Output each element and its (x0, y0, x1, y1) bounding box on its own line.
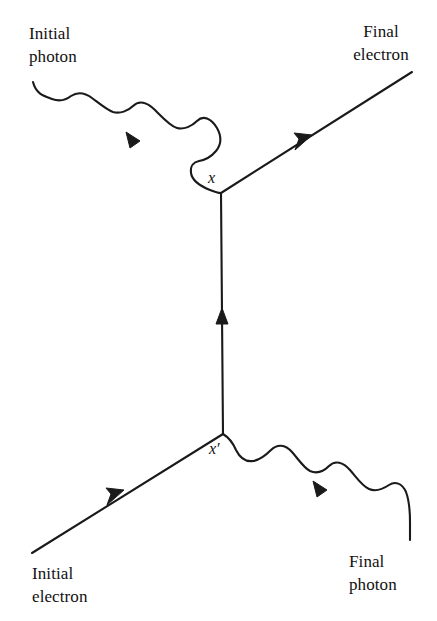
label-final-electron-line1: Final (363, 22, 398, 41)
label-vertex-x-prime: x′ (209, 440, 220, 458)
label-final-electron-line2: electron (344, 43, 418, 66)
label-final-electron: Final electron (344, 20, 418, 66)
feynman-diagram-figure: Initial photon Final electron Initial el… (0, 0, 437, 621)
final-photon-arrowhead (313, 481, 327, 497)
final-photon-line (223, 434, 410, 540)
label-final-photon-line1: Final (349, 552, 384, 571)
label-initial-electron: Initial electron (32, 562, 88, 608)
label-initial-photon-line1: Initial (29, 24, 70, 43)
label-final-photon: Final photon (349, 550, 397, 596)
initial-electron-line (32, 434, 223, 553)
label-initial-photon-line2: photon (29, 45, 77, 68)
initial-photon-line (33, 82, 221, 193)
final-electron-line (221, 72, 412, 193)
label-vertex-x: x (208, 169, 215, 187)
initial-photon-arrowhead (126, 132, 140, 148)
final-electron-arrowhead (294, 133, 312, 150)
electron-propagator-line (216, 193, 228, 434)
label-final-photon-line2: photon (349, 573, 397, 596)
label-initial-electron-line1: Initial (32, 564, 73, 583)
diagram-canvas (0, 0, 437, 621)
label-initial-photon: Initial photon (29, 22, 77, 68)
propagator-arrowhead (216, 308, 228, 324)
label-initial-electron-line2: electron (32, 585, 88, 608)
